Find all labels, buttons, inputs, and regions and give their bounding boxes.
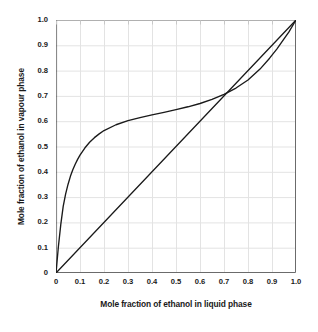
y-axis-tick-labels: 00.10.20.30.40.50.60.70.80.91.0: [0, 20, 53, 273]
y-tick-label: 0: [4, 269, 48, 277]
vle-equilibrium-chart: Mole fraction of ethanol in vapour phase…: [0, 0, 318, 332]
y-tick-label: 0.7: [4, 92, 48, 100]
y-tick-label: 0.2: [4, 218, 48, 226]
x-axis-title: Mole fraction of ethanol in liquid phase: [56, 299, 296, 309]
x-tick-label: 0.8: [236, 277, 260, 287]
x-tick-label: 0.9: [260, 277, 284, 287]
plot-canvas: [56, 20, 296, 273]
y-tick-label: 0.9: [4, 41, 48, 49]
y-tick-label: 0.3: [4, 193, 48, 201]
y-tick-label: 0.1: [4, 244, 48, 252]
y-tick-label: 0.8: [4, 67, 48, 75]
y-tick-label: 0.4: [4, 168, 48, 176]
x-tick-label: 0.1: [68, 277, 92, 287]
x-tick-label: 0.6: [188, 277, 212, 287]
x-tick-label: 0: [44, 277, 68, 287]
x-tick-label: 0.5: [164, 277, 188, 287]
y-tick-label: 0.5: [4, 143, 48, 151]
x-tick-label: 1.0: [284, 277, 308, 287]
x-tick-label: 0.2: [92, 277, 116, 287]
x-tick-label: 0.3: [116, 277, 140, 287]
y-tick-label: 1.0: [4, 16, 48, 24]
x-tick-label: 0.4: [140, 277, 164, 287]
x-tick-label: 0.7: [212, 277, 236, 287]
x-axis-tick-labels: 00.10.20.30.40.50.60.70.80.91.0: [56, 277, 296, 289]
plot-area: [56, 20, 296, 273]
y-tick-label: 0.6: [4, 117, 48, 125]
